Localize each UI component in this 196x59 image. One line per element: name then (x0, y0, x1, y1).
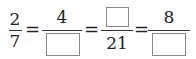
equals-sign-1: = (25, 21, 40, 39)
fraction-1-numerator: 2 (8, 11, 22, 28)
equals-sign-2: = (84, 21, 99, 39)
fraction-4-denominator-blank[interactable] (152, 33, 186, 56)
fraction-2-bar (42, 30, 82, 31)
equals-sign-3: = (134, 21, 149, 39)
fraction-2-denominator-blank[interactable] (46, 33, 80, 56)
fraction-4-bar (148, 30, 190, 31)
fraction-3-numerator-blank[interactable] (106, 7, 129, 27)
fraction-3-denominator: 21 (101, 35, 133, 52)
fraction-1-denominator: 7 (8, 33, 22, 50)
fraction-2-numerator: 4 (43, 9, 81, 26)
fraction-3-bar (101, 30, 133, 31)
fraction-4-numerator: 8 (149, 9, 189, 26)
